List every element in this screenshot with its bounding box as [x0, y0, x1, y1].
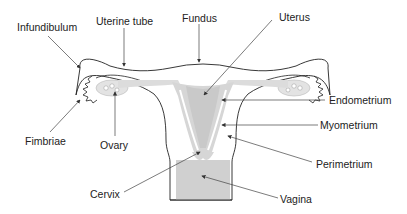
- label-myometrium: Myometrium: [320, 120, 378, 131]
- label-endometrium: Endometrium: [329, 95, 391, 106]
- label-fundus: Fundus: [182, 13, 217, 24]
- label-cervix: Cervix: [90, 189, 120, 200]
- right-fimbriae: [309, 76, 323, 103]
- label-infundibulum: Infundibulum: [17, 22, 77, 33]
- label-uterine-tube: Uterine tube: [96, 16, 153, 27]
- leader-perimetrium: [228, 136, 312, 162]
- label-vagina: Vagina: [280, 194, 312, 205]
- left-fimbriae: [83, 76, 97, 103]
- uterus-diagram: Infundibulum Uterine tube Fundus Uterus …: [0, 0, 407, 214]
- leader-fimbriae: [50, 100, 80, 132]
- label-fimbriae: Fimbriae: [25, 136, 66, 147]
- vagina-canal: [176, 160, 230, 200]
- leader-infundibulum: [48, 36, 80, 68]
- label-perimetrium: Perimetrium: [316, 159, 373, 170]
- label-ovary: Ovary: [100, 140, 128, 151]
- label-uterus: Uterus: [279, 12, 310, 23]
